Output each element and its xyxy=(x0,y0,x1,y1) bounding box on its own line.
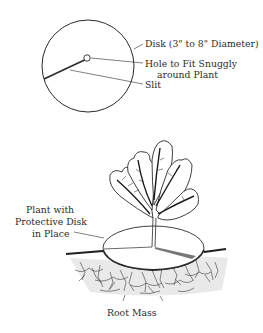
disk-in-place xyxy=(103,226,204,270)
plant-label-line1: Plant with xyxy=(26,204,74,215)
slit-leader xyxy=(70,70,143,84)
plant-leader xyxy=(74,232,104,238)
disk-leader xyxy=(134,44,143,49)
disk-label: Disk (3" to 8" Diameter) xyxy=(145,38,259,49)
slit-label: Slit xyxy=(145,79,161,90)
hole-label-line2: around Plant xyxy=(157,69,218,80)
slit-line xyxy=(44,60,85,79)
plant-hole xyxy=(84,55,90,61)
disk-top-view xyxy=(42,20,143,112)
disk-diagram: Disk (3" to 8" Diameter) Hole to Fit Snu… xyxy=(0,0,263,333)
hole-label-line1: Hole to Fit Snuggly xyxy=(145,58,238,69)
root-mass-label: Root Mass xyxy=(107,307,157,318)
plant-label-line2: Protective Disk xyxy=(15,216,87,227)
hole-leader xyxy=(91,58,143,63)
plant-label-line3: in Place xyxy=(32,228,70,239)
disk-circle xyxy=(42,20,134,112)
plant-leaves xyxy=(110,141,199,220)
